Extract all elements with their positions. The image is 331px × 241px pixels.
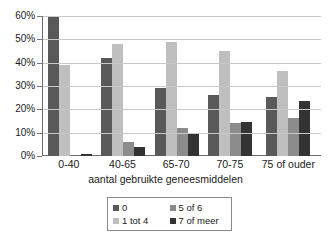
gridline: [43, 16, 321, 17]
legend-swatch-icon: [113, 218, 119, 224]
legend-label: 5 of 6: [179, 201, 203, 214]
bar[interactable]: [81, 154, 92, 156]
x-axis-tick-label: 40-65: [96, 158, 150, 174]
bar[interactable]: [123, 142, 134, 156]
bar[interactable]: [230, 123, 241, 156]
gridline: [43, 133, 321, 134]
bar[interactable]: [241, 122, 252, 156]
plot-area: [42, 16, 320, 156]
chart-legend: 05 of 61 tot 47 of meer: [107, 197, 232, 231]
y-axis-tick-label: 60%: [15, 11, 35, 21]
legend-item[interactable]: 1 tot 4: [113, 214, 170, 227]
bar[interactable]: [134, 147, 145, 156]
y-axis-tick-label: 0%: [21, 151, 35, 161]
bar[interactable]: [188, 133, 199, 156]
legend-swatch-icon: [170, 218, 176, 224]
y-axis-tick-label: 20%: [15, 104, 35, 114]
bar[interactable]: [101, 58, 112, 156]
y-axis: 0%10%20%30%40%50%60%: [0, 0, 40, 170]
gridline: [43, 63, 321, 64]
bar-chart: 0%10%20%30%40%50%60% 0-4040-6565-7070-75…: [0, 0, 331, 241]
bar[interactable]: [219, 51, 230, 156]
bar[interactable]: [208, 95, 219, 156]
x-axis-title: aantal gebruikte geneesmiddelen: [0, 173, 331, 185]
bar[interactable]: [266, 97, 277, 157]
plot-area-wrapper: 0%10%20%30%40%50%60%: [0, 0, 331, 170]
legend-item[interactable]: 7 of meer: [170, 214, 227, 227]
gridline: [43, 86, 321, 87]
x-axis-labels: 0-4040-6565-7070-7575 of ouder: [42, 158, 320, 174]
bar[interactable]: [166, 42, 177, 156]
x-axis-tick-label: 65-70: [149, 158, 203, 174]
y-axis-tick-label: 30%: [15, 81, 35, 91]
bar[interactable]: [288, 118, 299, 157]
legend-label: 1 tot 4: [122, 214, 148, 227]
bar[interactable]: [277, 71, 288, 156]
x-axis-tick-label: 75 of ouder: [257, 158, 320, 174]
legend-label: 7 of meer: [179, 214, 219, 227]
bar[interactable]: [59, 65, 70, 156]
y-axis-tick-label: 10%: [15, 128, 35, 138]
gridline: [43, 109, 321, 110]
y-axis-tick-mark: [37, 156, 42, 157]
x-axis-tick-label: 0-40: [42, 158, 96, 174]
legend-item[interactable]: 5 of 6: [170, 201, 227, 214]
gridline: [43, 39, 321, 40]
bar[interactable]: [155, 88, 166, 156]
bar[interactable]: [112, 44, 123, 156]
legend-item[interactable]: 0: [113, 201, 170, 214]
y-axis-tick-label: 40%: [15, 58, 35, 68]
y-axis-tick-label: 50%: [15, 34, 35, 44]
legend-label: 0: [122, 201, 127, 214]
x-axis-tick-label: 70-75: [203, 158, 257, 174]
legend-swatch-icon: [113, 205, 119, 211]
legend-swatch-icon: [170, 205, 176, 211]
